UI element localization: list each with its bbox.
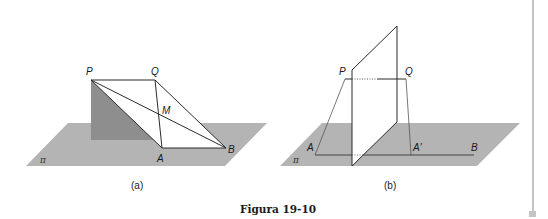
label-A-b: A [306, 142, 314, 153]
label-B-b: B [471, 142, 478, 153]
label-Q: Q [151, 66, 159, 77]
label-Q-b: Q [405, 66, 413, 77]
page-edge-marker [529, 211, 536, 217]
sublabel-b: (b) [384, 180, 396, 191]
label-pi-a: π [39, 155, 47, 165]
label-A-prime: A′ [412, 142, 423, 153]
figure-19-10: P Q M A B π (a) P Q A A′ B π (b) Figura … [0, 0, 548, 219]
plane-pi-b [280, 123, 520, 166]
sublabel-a: (a) [131, 180, 143, 191]
page-edge-bar [532, 0, 534, 212]
label-A: A [156, 153, 164, 164]
panel-b: P Q A A′ B π (b) [280, 26, 520, 191]
label-pi-b: π [292, 155, 300, 165]
label-B: B [228, 144, 235, 155]
figure-caption: Figura 19-10 [240, 203, 316, 215]
label-P: P [86, 66, 93, 77]
panel-a: P Q M A B π (a) [26, 66, 267, 191]
label-M: M [162, 105, 171, 116]
label-P-b: P [339, 66, 346, 77]
